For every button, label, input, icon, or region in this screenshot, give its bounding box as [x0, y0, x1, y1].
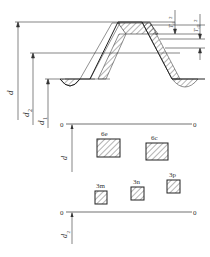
- svg-text:0: 0: [193, 209, 197, 217]
- svg-text:6e: 6e: [101, 130, 108, 138]
- svg-text:2: 2: [168, 16, 173, 19]
- svg-text:d2: d2: [196, 25, 201, 29]
- svg-text:d: d: [171, 23, 176, 25]
- svg-text:0: 0: [60, 121, 64, 129]
- zero-line-bottom: 0 0 d 2: [60, 209, 197, 244]
- zone-6c: 6c: [146, 134, 168, 160]
- svg-text:3m: 3m: [96, 182, 106, 190]
- svg-text:2: 2: [27, 109, 33, 112]
- svg-text:6c: 6c: [151, 134, 158, 142]
- thread-profile: [60, 22, 205, 87]
- label-d1: d 1: [36, 117, 48, 125]
- svg-text:3n: 3n: [133, 178, 141, 186]
- svg-text:0: 0: [60, 209, 64, 217]
- zone-6e: 6e: [97, 130, 120, 157]
- svg-text:0: 0: [193, 121, 197, 129]
- zone-3m: 3m: [95, 182, 107, 204]
- label-d2: d 2: [21, 109, 33, 117]
- svg-text:1: 1: [42, 117, 48, 120]
- svg-text:2: 2: [193, 19, 198, 22]
- svg-text:d: d: [60, 155, 69, 160]
- zone-3p: 3p: [167, 171, 180, 193]
- zero-line-top: 0 0 d: [60, 121, 197, 172]
- label-d: d: [5, 90, 15, 95]
- label-td2-half: T d2 2: [193, 19, 201, 32]
- svg-text:3p: 3p: [169, 171, 177, 179]
- thread-tolerance-diagram: d d 2 d 1 T d 2 T d2 2 0 0 d 6e 6c 3m: [0, 0, 210, 257]
- svg-text:2: 2: [66, 231, 71, 234]
- zone-3n: 3n: [131, 178, 144, 200]
